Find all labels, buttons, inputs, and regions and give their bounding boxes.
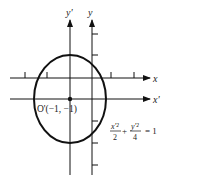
- equation-num2: y'²: [130, 122, 139, 131]
- y-prime-label: y': [65, 7, 73, 18]
- y-label: y: [87, 7, 93, 18]
- equation-num1: x'²: [110, 122, 119, 131]
- equation-den2: 4: [133, 133, 137, 142]
- ellipse-diagram: y' y x x' O'(−1, −1) x'² 2 + y'² 4 = 1: [0, 0, 197, 178]
- equation-plus: +: [122, 126, 127, 136]
- origin-label: O'(−1, −1): [37, 104, 77, 115]
- equation-den1: 2: [113, 133, 117, 142]
- x-label: x: [152, 73, 158, 84]
- equation-rhs: = 1: [145, 126, 157, 136]
- center-point: [68, 97, 72, 101]
- ellipse-equation: x'² 2 + y'² 4 = 1: [110, 122, 157, 142]
- x-prime-label: x': [152, 94, 160, 105]
